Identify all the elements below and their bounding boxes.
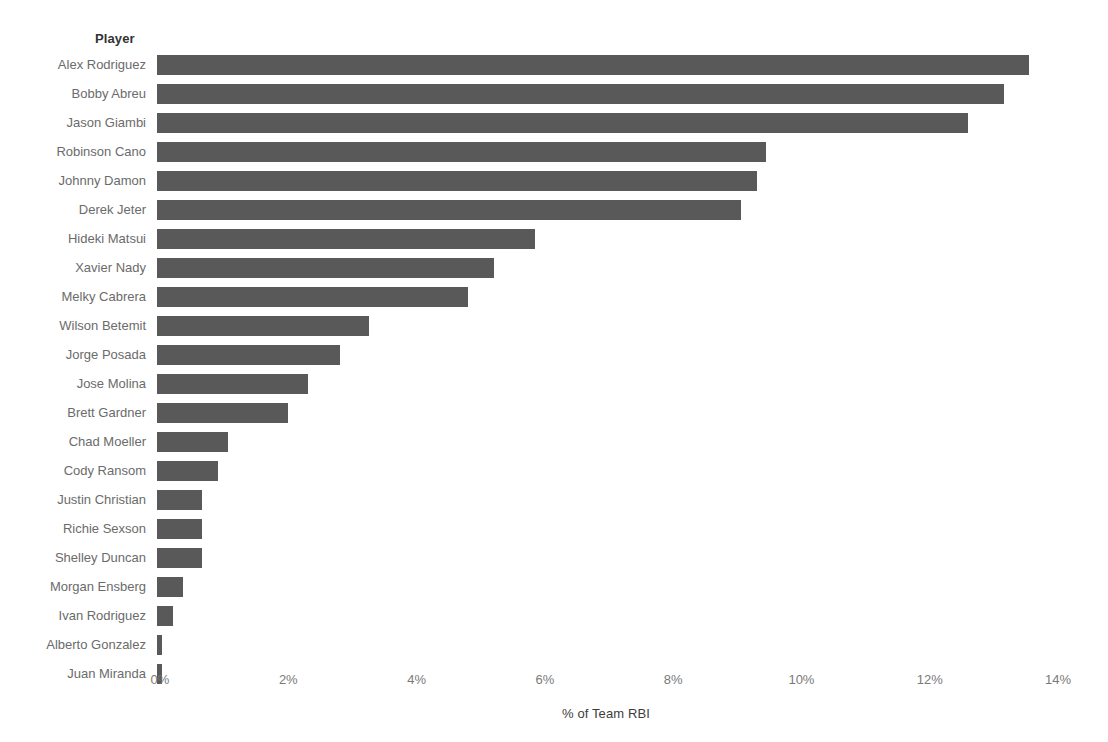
- x-axis-tick-label: 0%: [151, 672, 170, 687]
- x-axis: 0%2%4%6%8%10%12%14%: [0, 672, 1108, 694]
- bar-row[interactable]: Jose Molina: [0, 374, 1108, 403]
- bar-track: [157, 345, 1108, 365]
- bar-row[interactable]: Derek Jeter: [0, 200, 1108, 229]
- bar-track: [157, 577, 1108, 597]
- bar-row-label: Melky Cabrera: [61, 287, 146, 307]
- bar-row-label: Alex Rodriguez: [58, 55, 146, 75]
- bar[interactable]: [157, 548, 202, 568]
- bar-track: [157, 635, 1108, 655]
- bar-row-label: Shelley Duncan: [55, 548, 146, 568]
- bar[interactable]: [157, 200, 741, 220]
- bar-track: [157, 142, 1108, 162]
- bar-row-label: Cody Ransom: [64, 461, 146, 481]
- x-axis-tick-label: 4%: [407, 672, 426, 687]
- bar-row[interactable]: Jason Giambi: [0, 113, 1108, 142]
- bar-track: [157, 55, 1108, 75]
- bar-row-label: Xavier Nady: [75, 258, 146, 278]
- bar-track: [157, 461, 1108, 481]
- bar-row[interactable]: Brett Gardner: [0, 403, 1108, 432]
- bar-row-label: Morgan Ensberg: [50, 577, 146, 597]
- bar-row-label: Brett Gardner: [67, 403, 146, 423]
- bar[interactable]: [157, 403, 288, 423]
- x-axis-tick-label: 2%: [279, 672, 298, 687]
- x-axis-title: % of Team RBI: [0, 706, 1108, 721]
- bar-rows: Alex RodriguezBobby AbreuJason GiambiRob…: [0, 55, 1108, 693]
- bar-row[interactable]: Alberto Gonzalez: [0, 635, 1108, 664]
- bar[interactable]: [157, 258, 494, 278]
- bar[interactable]: [157, 84, 1004, 104]
- bar-row-label: Alberto Gonzalez: [46, 635, 146, 655]
- bar-track: [157, 432, 1108, 452]
- bar-row-label: Ivan Rodriguez: [59, 606, 146, 626]
- bar-row-label: Richie Sexson: [63, 519, 146, 539]
- bar-row-label: Jose Molina: [77, 374, 146, 394]
- bar-row[interactable]: Hideki Matsui: [0, 229, 1108, 258]
- bar[interactable]: [157, 432, 228, 452]
- x-axis-tick-label: 12%: [917, 672, 943, 687]
- bar-chart: Player Alex RodriguezBobby AbreuJason Gi…: [0, 0, 1108, 742]
- bar[interactable]: [157, 316, 369, 336]
- bar[interactable]: [157, 113, 968, 133]
- bar-row[interactable]: Wilson Betemit: [0, 316, 1108, 345]
- bar-track: [157, 229, 1108, 249]
- bar-row[interactable]: Johnny Damon: [0, 171, 1108, 200]
- bar-row[interactable]: Cody Ransom: [0, 461, 1108, 490]
- bar[interactable]: [157, 577, 183, 597]
- bar-row[interactable]: Melky Cabrera: [0, 287, 1108, 316]
- bar-row-label: Hideki Matsui: [68, 229, 146, 249]
- bar[interactable]: [157, 345, 340, 365]
- bar-row[interactable]: Shelley Duncan: [0, 548, 1108, 577]
- bar-track: [157, 606, 1108, 626]
- bar[interactable]: [157, 171, 757, 191]
- bar-row-label: Chad Moeller: [69, 432, 146, 452]
- bar[interactable]: [157, 519, 202, 539]
- bar-row-label: Wilson Betemit: [59, 316, 146, 336]
- bar[interactable]: [157, 287, 468, 307]
- bar-row[interactable]: Richie Sexson: [0, 519, 1108, 548]
- bar-row-label: Jason Giambi: [67, 113, 146, 133]
- bar-row[interactable]: Robinson Cano: [0, 142, 1108, 171]
- bar-track: [157, 200, 1108, 220]
- bar-row-label: Derek Jeter: [79, 200, 146, 220]
- bar[interactable]: [157, 229, 535, 249]
- bar[interactable]: [157, 55, 1029, 75]
- bar-row-label: Jorge Posada: [66, 345, 146, 365]
- bar[interactable]: [157, 490, 202, 510]
- bar-track: [157, 403, 1108, 423]
- bar-track: [157, 490, 1108, 510]
- x-axis-tick-label: 8%: [664, 672, 683, 687]
- bar-row[interactable]: Chad Moeller: [0, 432, 1108, 461]
- x-axis-tick-label: 6%: [535, 672, 554, 687]
- bar-track: [157, 171, 1108, 191]
- bar[interactable]: [157, 635, 162, 655]
- bar-row[interactable]: Xavier Nady: [0, 258, 1108, 287]
- bar-track: [157, 374, 1108, 394]
- bar-track: [157, 316, 1108, 336]
- bar-track: [157, 287, 1108, 307]
- bar-row[interactable]: Ivan Rodriguez: [0, 606, 1108, 635]
- bar-row[interactable]: Bobby Abreu: [0, 84, 1108, 113]
- bar-track: [157, 84, 1108, 104]
- bar-row-label: Bobby Abreu: [72, 84, 146, 104]
- bar[interactable]: [157, 606, 173, 626]
- bar[interactable]: [157, 142, 766, 162]
- bar-track: [157, 258, 1108, 278]
- bar-track: [157, 113, 1108, 133]
- x-axis-tick-label: 14%: [1045, 672, 1071, 687]
- bar-track: [157, 548, 1108, 568]
- bar[interactable]: [157, 374, 308, 394]
- bar-row-label: Justin Christian: [57, 490, 146, 510]
- bar-row[interactable]: Justin Christian: [0, 490, 1108, 519]
- bar-row[interactable]: Alex Rodriguez: [0, 55, 1108, 84]
- x-axis-title-label: % of Team RBI: [562, 706, 650, 721]
- bar-row-label: Robinson Cano: [56, 142, 146, 162]
- y-axis-title: Player: [95, 31, 135, 46]
- x-axis-tick-label: 10%: [788, 672, 814, 687]
- bar-row[interactable]: Morgan Ensberg: [0, 577, 1108, 606]
- bar-track: [157, 519, 1108, 539]
- bar-row[interactable]: Jorge Posada: [0, 345, 1108, 374]
- bar[interactable]: [157, 461, 218, 481]
- bar-row-label: Johnny Damon: [59, 171, 146, 191]
